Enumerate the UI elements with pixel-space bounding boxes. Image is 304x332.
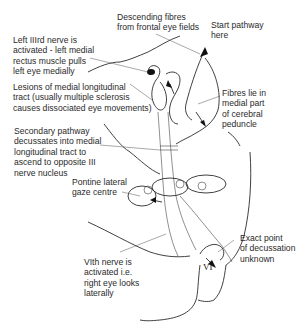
- label-descending-fibres: Descending fibres from frontal eye field…: [117, 12, 199, 33]
- mlf-tract-left: [158, 112, 178, 256]
- descending-fibre-path: [185, 56, 202, 120]
- nucleus-circle-c: [198, 182, 206, 190]
- sixth-nucleus-loop: [186, 175, 226, 193]
- label-sixth-nerve: VIth nerve is activated i.e. right eye l…: [84, 257, 139, 299]
- label-fibres-medial: Fibres lie in medial part of cerebral pe…: [222, 88, 266, 130]
- tract-crossbar: [160, 146, 178, 150]
- cerebral-peduncle-outline: [176, 58, 219, 144]
- label-exact-point: Exact point of decussation unknown: [240, 233, 295, 264]
- midbrain-outline-left: [104, 124, 160, 174]
- label-pontine-gaze: Pontine lateral gaze centre: [72, 177, 127, 198]
- label-lesions-mlf: Lesions of medial longitudinal tract (us…: [13, 82, 152, 113]
- label-start-pathway: Start pathway here: [211, 20, 264, 41]
- leader-secondary: [100, 145, 160, 150]
- pons-outline: [228, 132, 240, 146]
- sixth-nerve-root: [200, 244, 224, 260]
- vi-nerve-tag: VI: [203, 262, 213, 272]
- pons-lower-curve: [88, 222, 190, 257]
- arrow-down-icon: [200, 120, 206, 127]
- leader-third-nerve: [90, 58, 148, 72]
- leader-fibres: [198, 96, 220, 104]
- arrow-up-icon: [166, 80, 172, 88]
- start-arrow-icon: [200, 47, 208, 57]
- left-eye-nucleus-icon: [147, 69, 155, 75]
- nucleus-circle-b: [176, 180, 184, 188]
- cortex-curve: [88, 36, 180, 72]
- label-left-third-nerve: Left IIIrd nerve is activated - left med…: [13, 35, 94, 77]
- label-secondary-pathway: Secondary pathway decussates into medial…: [14, 126, 101, 178]
- medulla-outline: [140, 265, 200, 321]
- mlf-tract-right: [168, 112, 196, 250]
